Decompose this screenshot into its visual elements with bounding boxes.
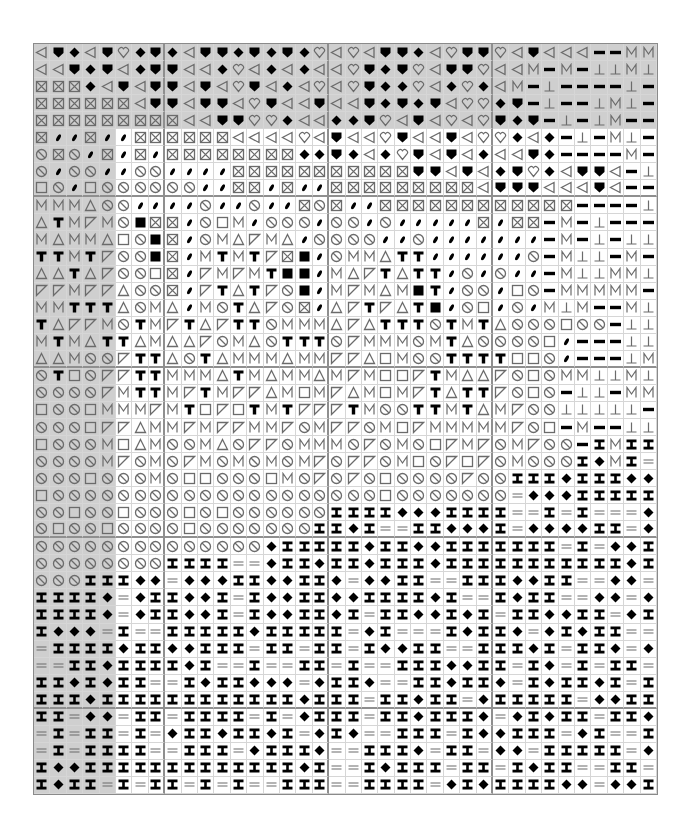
- outline-triangle-icon: [477, 402, 493, 419]
- double-line-icon: [329, 777, 345, 794]
- slashed-circle-icon: [34, 368, 50, 385]
- slashed-circle-icon: [378, 436, 394, 453]
- letter-m-icon: [608, 266, 624, 283]
- i-beam-icon: [591, 521, 607, 538]
- slashed-circle-icon: [231, 538, 247, 555]
- double-line-icon: [509, 487, 525, 504]
- up-tack-icon: [624, 419, 640, 436]
- i-beam-icon: [296, 555, 312, 572]
- corner-triangle-icon: [149, 402, 165, 419]
- i-beam-icon: [559, 692, 575, 709]
- filled-diamond-icon: [182, 658, 198, 675]
- thick-dash-icon: [575, 231, 591, 248]
- filled-shield-icon: [198, 78, 214, 95]
- outline-square-icon: [34, 402, 50, 419]
- i-beam-icon: [83, 777, 99, 794]
- boxed-x-icon: [116, 112, 132, 129]
- outline-square-icon: [100, 521, 116, 538]
- filled-teardrop-icon: [165, 163, 181, 180]
- filled-teardrop-icon: [559, 334, 575, 351]
- slashed-circle-icon: [493, 487, 509, 504]
- slashed-circle-icon: [198, 521, 214, 538]
- i-beam-icon: [165, 777, 181, 794]
- filled-diamond-icon: [608, 589, 624, 606]
- slashed-circle-icon: [296, 214, 312, 231]
- filled-diamond-icon: [165, 641, 181, 658]
- i-beam-icon: [346, 692, 362, 709]
- letter-m-icon: [149, 453, 165, 470]
- letter-m-icon: [214, 266, 230, 283]
- outline-triangle-icon: [477, 368, 493, 385]
- corner-triangle-icon: [329, 402, 345, 419]
- slashed-circle-icon: [280, 300, 296, 317]
- boxed-x-icon: [296, 163, 312, 180]
- filled-teardrop-icon: [198, 180, 214, 197]
- slashed-circle-icon: [280, 283, 296, 300]
- outline-left-triangle-icon: [329, 78, 345, 95]
- letter-m-icon: [362, 368, 378, 385]
- boxed-x-icon: [100, 112, 116, 129]
- thick-dash-icon: [542, 249, 558, 266]
- thick-dash-icon: [575, 61, 591, 78]
- double-line-icon: [346, 572, 362, 589]
- slashed-circle-icon: [116, 521, 132, 538]
- outline-left-triangle-icon: [34, 61, 50, 78]
- thick-dash-icon: [575, 214, 591, 231]
- filled-diamond-icon: [493, 726, 509, 743]
- slashed-circle-icon: [67, 538, 83, 555]
- filled-square-icon: [132, 214, 148, 231]
- outline-triangle-icon: [116, 283, 132, 300]
- i-beam-icon: [329, 521, 345, 538]
- up-tack-icon: [641, 266, 657, 283]
- i-beam-icon: [378, 709, 394, 726]
- filled-diamond-icon: [395, 78, 411, 95]
- slashed-circle-icon: [280, 487, 296, 504]
- i-beam-icon: [280, 726, 296, 743]
- boxed-x-icon: [509, 197, 525, 214]
- corner-triangle-icon: [313, 402, 329, 419]
- filled-diamond-icon: [182, 572, 198, 589]
- outline-heart-icon: [346, 61, 362, 78]
- i-beam-icon: [100, 572, 116, 589]
- filled-shield-icon: [214, 44, 230, 61]
- letter-m-icon: [67, 249, 83, 266]
- bold-t-icon: [378, 317, 394, 334]
- i-beam-icon: [378, 692, 394, 709]
- filled-diamond-icon: [313, 555, 329, 572]
- double-line-icon: [34, 743, 50, 760]
- letter-m-icon: [624, 266, 640, 283]
- boxed-x-icon: [329, 163, 345, 180]
- slashed-circle-icon: [67, 487, 83, 504]
- outline-triangle-icon: [214, 351, 230, 368]
- letter-m-icon: [198, 368, 214, 385]
- boxed-x-icon: [346, 163, 362, 180]
- slashed-circle-icon: [132, 538, 148, 555]
- filled-diamond-icon: [296, 760, 312, 777]
- filled-teardrop-icon: [50, 163, 66, 180]
- double-line-icon: [34, 658, 50, 675]
- i-beam-icon: [362, 589, 378, 606]
- i-beam-icon: [509, 538, 525, 555]
- letter-m-icon: [116, 402, 132, 419]
- corner-triangle-icon: [346, 368, 362, 385]
- corner-triangle-icon: [346, 351, 362, 368]
- i-beam-icon: [641, 777, 657, 794]
- filled-teardrop-icon: [362, 214, 378, 231]
- double-line-icon: [264, 777, 280, 794]
- slashed-circle-icon: [182, 487, 198, 504]
- filled-teardrop-icon: [526, 266, 542, 283]
- i-beam-icon: [346, 504, 362, 521]
- filled-diamond-icon: [411, 538, 427, 555]
- thick-dash-icon: [542, 112, 558, 129]
- letter-m-icon: [100, 402, 116, 419]
- outline-left-triangle-icon: [182, 112, 198, 129]
- filled-teardrop-icon: [444, 214, 460, 231]
- slashed-circle-icon: [395, 470, 411, 487]
- i-beam-icon: [34, 760, 50, 777]
- letter-m-icon: [67, 231, 83, 248]
- outline-square-icon: [526, 368, 542, 385]
- filled-teardrop-icon: [509, 249, 525, 266]
- boxed-x-icon: [411, 180, 427, 197]
- filled-diamond-icon: [509, 743, 525, 760]
- corner-triangle-icon: [346, 470, 362, 487]
